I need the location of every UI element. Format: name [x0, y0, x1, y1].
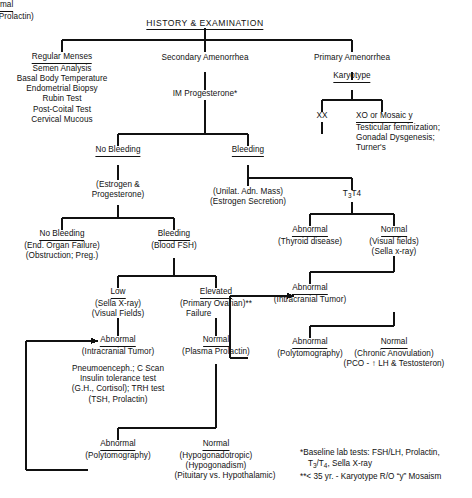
- no-bleeding-2-line-0: (End. Organ Failure): [24, 241, 100, 251]
- node-no-bleeding-2: No Bleeding (End. Organ Failure) (Obstru…: [24, 229, 100, 261]
- bottom-normal-hypogonad-line-2: (Pituitary vs. Hypothalamic): [174, 471, 275, 481]
- node-bottom-normal-hypogonad: Normal (Hypogonadotropic) (Hypogonadism)…: [156, 439, 275, 481]
- node-right-normal-prolactin: Normal (Plasma Prolactin): [0, 0, 34, 22]
- xo-mosaic-heading: XO or Mosaic y: [356, 111, 413, 123]
- xo-mosaic-line-2: Turner's: [356, 143, 440, 153]
- node-bottom-abnormal-poly: Abnormal (Polytomography): [85, 439, 150, 461]
- fsh-low-line-0: (Sella X-ray): [92, 299, 144, 309]
- bottom-abnormal-poly-heading: Abnormal: [100, 439, 135, 451]
- right-normal-anovulation-line-0: (Chronic Anovulation): [344, 349, 445, 359]
- fsh-elevated-line-1: Failure: [180, 309, 252, 319]
- no-bleeding-1-line-1: Progesterone): [92, 190, 145, 200]
- regular-menses-line-0: Semen Analysis: [17, 64, 108, 74]
- node-right-normal-anovulation: Normal (Chronic Anovulation) (PCO - ↑ LH…: [344, 337, 445, 369]
- regular-menses-line-2: Endometrial Biopsy: [17, 84, 108, 94]
- left-abnormal-tumor-line-0: (Intracranial Tumor): [82, 347, 154, 357]
- node-bleeding-1: Bleeding: [232, 145, 264, 157]
- fsh-elevated-line-0: (Primary Ovarian)**: [180, 299, 252, 309]
- no-bleeding-2-heading: No Bleeding: [39, 229, 84, 241]
- bottom-normal-hypogonad-line-1: (Hypogonadism): [156, 461, 275, 471]
- node-xx: XX: [316, 111, 327, 121]
- flowchart-canvas: HISTORY & EXAMINATION Regular Menses Sem…: [0, 0, 472, 498]
- right-normal-anovulation-line-1: (PCO - ↑ LH & Testosteron): [344, 359, 445, 369]
- regular-menses-line-5: Cervical Mucous: [17, 115, 108, 125]
- right-abnormal-poly-heading: Abnormal: [292, 337, 327, 349]
- node-left-normal-prolactin: Normal (Plasma Prolactin): [182, 335, 250, 357]
- node-fsh-low: Low (Sella X-ray) (Visual Fields): [92, 287, 144, 319]
- bleeding-1-line-1: (Estrogen Secretion): [210, 197, 286, 207]
- bottom-normal-hypogonad-line-0: (Hypogonadotropic): [156, 451, 275, 461]
- node-no-bleeding-1: No Bleeding: [95, 145, 140, 157]
- thyroid-normal-line-0: (Visual fields): [369, 237, 419, 247]
- node-karyotype: Karyotype: [333, 71, 370, 83]
- xo-mosaic-line-0: Testicular feminization;: [356, 123, 440, 133]
- regular-menses-heading: Regular Menses: [32, 52, 92, 64]
- node-workup-tests: Pneumoenceph.; C Scan Insulin tolerance …: [72, 364, 165, 405]
- im-progesterone-label: IM Progesterone*: [173, 89, 238, 98]
- node-regular-menses: Regular Menses Semen Analysis Basal Body…: [17, 52, 108, 125]
- node-secondary-amenorrhea: Secondary Amenorrhea: [161, 53, 248, 63]
- right-abnormal-tumor-line-0: (Intracranial Tumor): [274, 295, 346, 305]
- no-bleeding-1-line-0: (Estrogen &: [92, 180, 145, 190]
- right-abnormal-poly-line-0: (Polytomography): [277, 349, 342, 359]
- bleeding-2-line-0: (Blood FSH): [151, 241, 197, 251]
- node-im-progesterone: IM Progesterone*: [173, 89, 238, 99]
- right-abnormal-tumor-heading: Abnormal: [292, 283, 327, 295]
- t3t4-label: T3T4: [343, 189, 361, 198]
- regular-menses-line-3: Rubin Test: [17, 94, 108, 104]
- bottom-abnormal-poly-line-0: (Polytomography): [85, 451, 150, 461]
- footnote-line-1: *Baseline lab tests: FSH/LH, Prolactin,: [300, 447, 441, 458]
- thyroid-normal-line-1: (Sella x-ray): [369, 247, 419, 257]
- node-right-abnormal-tumor: Abnormal (Intracranial Tumor): [274, 283, 346, 305]
- node-t3-t4: T3T4: [343, 189, 361, 201]
- karyotype-label: Karyotype: [333, 71, 370, 83]
- footnote-line-2: T3/T4, Sella X-ray: [300, 458, 441, 471]
- node-thyroid-abnormal: Abnormal (Thyroid disease): [278, 225, 342, 247]
- thyroid-abnormal-line-0: (Thyroid disease): [278, 237, 342, 247]
- footnote-line-3: **< 35 yr. - Karyotype R/O “y” Mosaism: [300, 471, 441, 482]
- regular-menses-line-1: Basal Body Temperature: [17, 74, 108, 84]
- node-fsh-elevated: Elevated (Primary Ovarian)** Failure: [180, 287, 252, 319]
- right-normal-anovulation-heading: Normal: [381, 337, 408, 349]
- node-bleeding-1-detail: (Unilat. Adn. Mass) (Estrogen Secretion): [210, 187, 286, 207]
- title-text: HISTORY & EXAMINATION: [146, 18, 263, 30]
- regular-menses-line-4: Post-Coital Test: [17, 105, 108, 115]
- node-bleeding-2: Bleeding (Blood FSH): [151, 229, 197, 251]
- secondary-amenorrhea-label: Secondary Amenorrhea: [161, 53, 248, 62]
- primary-amenorrhea-label: Primary Amenorrhea: [314, 53, 390, 62]
- left-normal-prolactin-heading: Normal: [203, 335, 230, 347]
- bleeding-1-heading: Bleeding: [232, 145, 264, 157]
- node-thyroid-normal: Normal (Visual fields) (Sella x-ray): [369, 225, 419, 257]
- no-bleeding-1-heading: No Bleeding: [95, 145, 140, 157]
- right-normal-prolactin-heading: Normal: [0, 0, 13, 12]
- bleeding-2-heading: Bleeding: [158, 229, 190, 241]
- fsh-elevated-heading: Elevated: [200, 287, 232, 299]
- no-bleeding-2-line-1: (Obstruction; Preg.): [24, 251, 100, 261]
- thyroid-normal-heading: Normal: [381, 225, 408, 237]
- right-normal-prolactin-line-0: (Plasma Prolactin): [0, 12, 34, 22]
- workup-tests-line-0: Pneumoenceph.; C Scan: [72, 364, 165, 374]
- fsh-low-heading: Low: [110, 287, 125, 299]
- workup-tests-line-1: Insulin tolerance test: [72, 374, 165, 384]
- page-title: HISTORY & EXAMINATION: [146, 18, 263, 30]
- node-right-abnormal-poly: Abnormal (Polytomography): [277, 337, 342, 359]
- workup-tests-line-3: (TSH, Prolactin): [72, 395, 165, 405]
- xo-mosaic-line-1: Gonadal Dysgenesis;: [356, 133, 440, 143]
- node-left-abnormal-tumor: Abnormal (Intracranial Tumor): [82, 335, 154, 357]
- left-normal-prolactin-line-0: (Plasma Prolactin): [182, 347, 250, 357]
- footnotes: *Baseline lab tests: FSH/LH, Prolactin, …: [300, 447, 441, 482]
- node-primary-amenorrhea: Primary Amenorrhea: [314, 53, 390, 63]
- bottom-normal-hypogonad-heading: Normal: [203, 439, 230, 451]
- node-xo-mosaic: XO or Mosaic y Testicular feminization; …: [356, 111, 440, 153]
- workup-tests-line-2: (G.H., Cortisol); TRH test: [72, 384, 165, 394]
- thyroid-abnormal-heading: Abnormal: [292, 225, 327, 237]
- node-no-bleeding-1-detail: (Estrogen & Progesterone): [92, 180, 145, 200]
- xx-label: XX: [316, 111, 327, 120]
- left-abnormal-tumor-heading: Abnormal: [100, 335, 135, 347]
- bleeding-1-line-0: (Unilat. Adn. Mass): [210, 187, 286, 197]
- fsh-low-line-1: (Visual Fields): [92, 309, 144, 319]
